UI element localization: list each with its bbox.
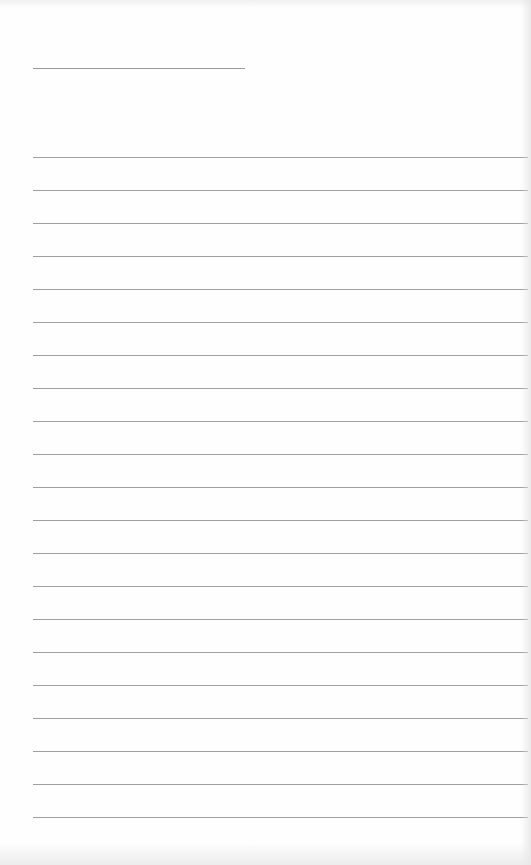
ruled-line: [33, 223, 528, 224]
ruled-line: [33, 652, 528, 653]
ruled-line: [33, 355, 528, 356]
ruled-line: [33, 619, 528, 620]
ruled-line: [33, 586, 528, 587]
lined-paper-page: [0, 0, 531, 865]
ruled-line: [33, 751, 528, 752]
ruled-line: [33, 520, 528, 521]
ruled-line: [33, 685, 528, 686]
ruled-line: [33, 817, 528, 818]
top-edge-shadow: [0, 0, 531, 8]
ruled-line: [33, 454, 528, 455]
ruled-line: [33, 553, 528, 554]
ruled-line: [33, 388, 528, 389]
ruled-line: [33, 256, 528, 257]
header-name-line: [33, 68, 245, 69]
ruled-line: [33, 421, 528, 422]
ruled-line: [33, 487, 528, 488]
bottom-edge-shadow: [0, 843, 531, 865]
ruled-line: [33, 190, 528, 191]
right-edge-shadow: [521, 0, 531, 865]
ruled-line: [33, 322, 528, 323]
ruled-line: [33, 784, 528, 785]
ruled-line: [33, 718, 528, 719]
ruled-line: [33, 157, 528, 158]
ruled-line: [33, 289, 528, 290]
